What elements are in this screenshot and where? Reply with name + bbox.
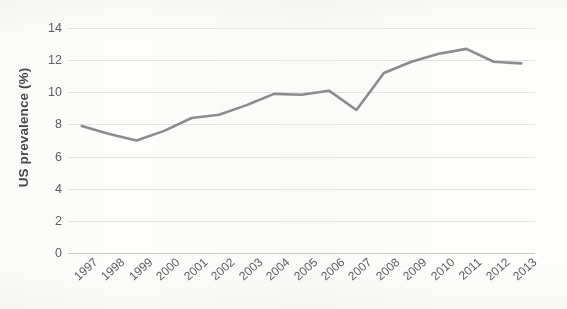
x-tick-label-2007: 2007 <box>346 255 375 283</box>
x-tick-label-2001: 2001 <box>181 255 210 283</box>
x-tick-label-2000: 2000 <box>153 255 182 283</box>
x-tick-label-2012: 2012 <box>483 255 512 283</box>
x-tick-label-2010: 2010 <box>428 255 457 283</box>
x-tick-label-2002: 2002 <box>208 255 237 283</box>
y-tick-label-0: 0 <box>32 246 62 260</box>
y-tick-label-2: 2 <box>32 214 62 228</box>
chart-screenshot: US prevalence (%) 02468101214 1997199819… <box>0 0 567 309</box>
x-tick-label-2011: 2011 <box>456 255 485 283</box>
y-tick-label-10: 10 <box>32 85 62 99</box>
line-series-svg <box>68 28 535 253</box>
y-tick-label-14: 14 <box>32 21 62 35</box>
y-tick-label-4: 4 <box>32 182 62 196</box>
y-tick-label-12: 12 <box>32 53 62 67</box>
x-tick-label-2005: 2005 <box>291 255 320 283</box>
y-tick-label-8: 8 <box>32 117 62 131</box>
plot-area <box>68 28 535 253</box>
x-tick-label-2003: 2003 <box>236 255 265 283</box>
x-tick-label-2008: 2008 <box>373 255 402 283</box>
line-series-path <box>82 49 522 141</box>
gridline-0 <box>68 253 535 254</box>
x-tick-label-2004: 2004 <box>263 255 292 283</box>
y-axis-tick-labels: 02468101214 <box>28 0 62 309</box>
x-tick-label-2006: 2006 <box>318 255 347 283</box>
y-tick-label-6: 6 <box>32 150 62 164</box>
x-tick-label-1998: 1998 <box>98 255 127 283</box>
x-tick-label-2009: 2009 <box>401 255 430 283</box>
x-tick-label-1997: 1997 <box>71 255 100 283</box>
x-tick-label-1999: 1999 <box>126 255 155 283</box>
x-axis-tick-labels: 1997199819992000200120022003200420052006… <box>68 255 535 309</box>
x-tick-label-2013: 2013 <box>510 255 539 283</box>
